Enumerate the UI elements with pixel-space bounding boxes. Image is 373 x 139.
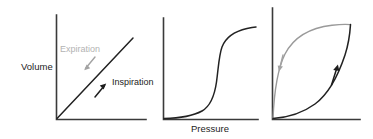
pressure-volume-figure: Volume Pressure Expiration Inspiration [0,0,373,139]
x-axis-label: Pressure [191,124,229,134]
panel1-expiration-arrow-icon [84,57,95,70]
panel3-expiration-arrow-icon [278,55,283,72]
panel2-axes [164,18,259,120]
panel3-inspiration-arrow-icon [332,65,340,86]
panel1-inspiration-arrow-icon [95,84,106,97]
panel-linear-compliance [57,15,147,120]
panel3-inspiration-curve [273,25,351,119]
panel2-sigmoid-curve [164,27,256,119]
y-axis-label: Volume [21,62,53,72]
inspiration-label: Inspiration [112,78,154,87]
figure-canvas [0,0,373,139]
panel-sigmoid-compliance [164,18,259,120]
expiration-label: Expiration [60,45,100,54]
panel-hysteresis-loop [273,8,361,120]
